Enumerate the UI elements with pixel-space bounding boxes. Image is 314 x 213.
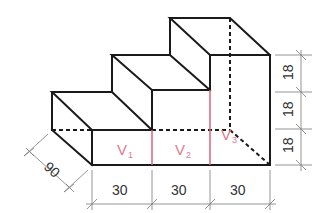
height-dimensions: 18 18 18 <box>275 50 312 171</box>
svg-text:1: 1 <box>128 150 133 160</box>
svg-text:2: 2 <box>186 150 191 160</box>
width-value-1: 30 <box>112 182 128 198</box>
width-value-2: 30 <box>171 182 187 198</box>
staircase-diagram: V 1 V 2 V 3 90 30 30 30 <box>0 0 314 213</box>
width-dimensions: 30 30 30 <box>86 170 276 210</box>
solid-edges <box>52 18 270 165</box>
svg-text:V: V <box>117 141 127 158</box>
svg-text:V: V <box>175 141 185 158</box>
height-value-2: 18 <box>280 101 296 117</box>
volume-label-v1: V 1 <box>117 141 133 160</box>
height-value-1: 18 <box>280 64 296 80</box>
height-value-3: 18 <box>280 137 296 153</box>
depth-value: 90 <box>41 158 63 180</box>
depth-dimension: 90 <box>24 134 88 192</box>
volume-label-v3: V 3 <box>221 126 237 145</box>
svg-text:V: V <box>221 126 231 143</box>
svg-text:3: 3 <box>232 135 237 145</box>
width-value-3: 30 <box>230 182 246 198</box>
volume-label-v2: V 2 <box>175 141 191 160</box>
